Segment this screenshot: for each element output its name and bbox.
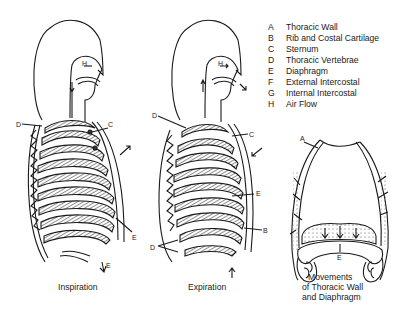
expiration-figure — [158, 20, 262, 278]
legend-item: FExternal Intercostal — [268, 77, 379, 88]
legend-item: DThoracic Vertebrae — [268, 55, 379, 66]
inspiration-caption: Inspiration — [58, 282, 98, 292]
inspiration-label-e: E — [132, 234, 137, 241]
legend-item: AThoracic Wall — [268, 22, 379, 33]
inspiration-label-e-bottom: E — [106, 262, 111, 269]
expiration-label-c: C — [249, 131, 254, 138]
legend-item: BRib and Costal Cartilage — [268, 33, 379, 44]
legend-item: CSternum — [268, 44, 379, 55]
movements-caption: Movements of Thoracic Wall and Diaphragm — [306, 272, 363, 302]
expiration-ribs — [174, 125, 244, 257]
legend-item: GInternal Intercostal — [268, 88, 379, 99]
legend: AThoracic Wall BRib and Costal Cartilage… — [268, 22, 379, 110]
inspiration-label-h: H — [82, 60, 87, 67]
legend-item: HAir Flow — [268, 99, 379, 110]
movements-label-e: E — [337, 254, 342, 261]
inspiration-figure — [22, 20, 132, 272]
inspiration-label-c: C — [108, 121, 113, 128]
expiration-label-b: B — [263, 227, 268, 234]
expiration-label-e: E — [256, 190, 261, 197]
inspiration-label-d: D — [16, 121, 21, 128]
expiration-label-h: H — [218, 60, 223, 67]
expiration-caption: Expiration — [188, 282, 226, 292]
expiration-label-d-bottom: D — [150, 244, 155, 251]
legend-item: EDiaphragm — [268, 66, 379, 77]
expiration-label-d-top: D — [152, 112, 157, 119]
movements-label-a: A — [300, 135, 305, 142]
